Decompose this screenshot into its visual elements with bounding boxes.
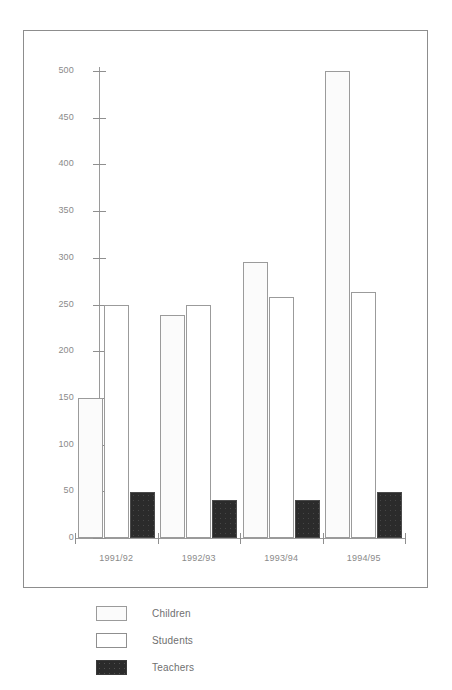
bar-children-1992-93	[160, 315, 185, 538]
legend-swatch-teachers-icon	[96, 660, 127, 675]
x-axis-label: 1994/95	[324, 553, 404, 563]
bar-students-1994-95	[351, 292, 376, 538]
legend-swatch-children-icon	[96, 606, 127, 621]
chart-legend: ChildrenStudentsTeachers	[96, 600, 356, 681]
bar-teachers-1992-93	[212, 500, 237, 538]
legend-item-teachers: Teachers	[96, 654, 356, 681]
bars-layer	[24, 31, 429, 538]
legend-label: Teachers	[152, 662, 194, 673]
bar-teachers-1994-95	[377, 492, 402, 538]
legend-label: Students	[152, 635, 193, 646]
legend-label: Children	[152, 608, 191, 619]
y-axis-tick	[93, 538, 106, 539]
x-axis-label: 1993/94	[241, 553, 321, 563]
plot-area: 050100150200250300350400450500 1991/9219…	[24, 31, 429, 589]
bar-students-1991-92	[104, 305, 129, 539]
bar-students-1992-93	[186, 305, 211, 539]
x-axis-label: 1991/92	[76, 553, 156, 563]
bar-teachers-1993-94	[295, 500, 320, 538]
bar-children-1994-95	[325, 71, 350, 538]
x-axis-label: 1992/93	[159, 553, 239, 563]
bar-children-1991-92	[78, 398, 103, 538]
chart-frame: 050100150200250300350400450500 1991/9219…	[23, 30, 428, 588]
bar-students-1993-94	[269, 297, 294, 538]
legend-item-children: Children	[96, 600, 356, 627]
bar-children-1993-94	[243, 262, 268, 538]
bar-teachers-1991-92	[130, 492, 155, 538]
legend-item-students: Students	[96, 627, 356, 654]
legend-swatch-students-icon	[96, 633, 127, 648]
